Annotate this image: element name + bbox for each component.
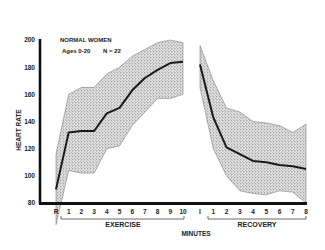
- chart-title: NORMAL WOMEN: [60, 37, 112, 43]
- recovery-bracket: [208, 216, 306, 219]
- x-tick-label: 10: [179, 208, 187, 215]
- exercise-bracket: [61, 216, 184, 219]
- std-dev-bands: [56, 40, 306, 225]
- x-tick-label: 4: [105, 208, 109, 215]
- y-tick-label: 80: [28, 199, 36, 206]
- x-tick-label: I: [199, 208, 201, 215]
- x-tick-label: 3: [238, 208, 242, 215]
- x-tick-label: 6: [278, 208, 282, 215]
- x-tick-labels: R12345678910I12345678: [54, 208, 309, 215]
- subtitle-n: N = 22: [103, 48, 122, 54]
- x-tick-label: 4: [251, 208, 255, 215]
- y-tick-label: 100: [24, 172, 35, 179]
- x-tick-label: 9: [168, 208, 172, 215]
- y-tick-label: 160: [24, 91, 35, 98]
- heart-rate-chart: 80100120140160180200 R12345678910I123456…: [0, 0, 325, 250]
- y-tick-label: 140: [24, 118, 35, 125]
- x-tick-label: 8: [156, 208, 160, 215]
- recovery-label: RECOVERY: [237, 221, 276, 228]
- y-tick-label: 120: [24, 145, 35, 152]
- subtitle-ages: Ages 0-20: [62, 48, 91, 54]
- x-tick-label: 5: [264, 208, 268, 215]
- x-tick-label: R: [54, 208, 59, 215]
- x-tick-label: 2: [80, 208, 84, 215]
- x-tick-label: 7: [291, 208, 295, 215]
- y-tick-label: 180: [24, 64, 35, 71]
- x-tick-label: 5: [118, 208, 122, 215]
- y-tick-label: 200: [24, 36, 35, 43]
- x-tick-label: 8: [304, 208, 308, 215]
- x-tick-label: 1: [211, 208, 215, 215]
- x-tick-label: 1: [67, 208, 71, 215]
- x-tick-label: 3: [92, 208, 96, 215]
- x-tick-label: 2: [225, 208, 229, 215]
- exercise-label: EXERCISE: [105, 221, 141, 228]
- x-tick-label: 7: [143, 208, 147, 215]
- x-axis-title: MINUTES: [181, 230, 211, 237]
- y-tick-labels: 80100120140160180200: [24, 36, 35, 206]
- y-axis-title: HEART RATE: [15, 109, 22, 151]
- x-tick-label: 6: [130, 208, 134, 215]
